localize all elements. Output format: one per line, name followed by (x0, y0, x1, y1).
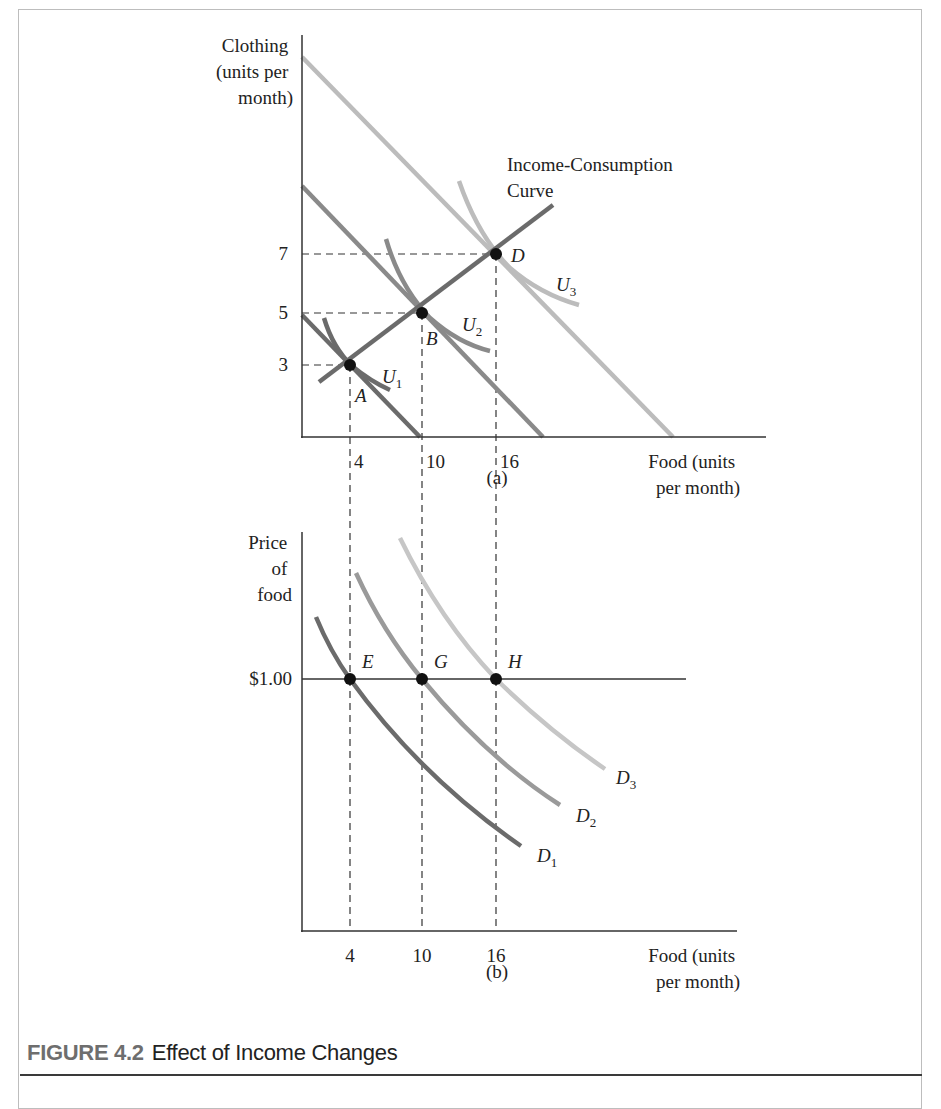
x-axis-label-b: Food (units per month) (648, 945, 740, 993)
point-label-g: G (434, 651, 448, 672)
point-label-e: E (361, 651, 374, 672)
y-axis-label-b: Price of food (248, 532, 292, 605)
demand-curve-d3 (400, 538, 605, 769)
caption-rule (20, 1074, 922, 1076)
figure-number: FIGURE 4.2 (27, 1040, 144, 1065)
y-tick-5: 5 (279, 302, 289, 323)
point-label-b: B (426, 328, 438, 349)
point-g (416, 673, 428, 685)
guide-lines-b (350, 679, 496, 931)
label-d1: D1 (536, 845, 557, 870)
budget-line-1 (302, 315, 420, 437)
y-tick-3: 3 (279, 354, 289, 375)
panel-b: E G H Price of food $1.00 4 10 16 Food (… (248, 532, 740, 993)
figure-caption: FIGURE 4.2Effect of Income Changes (20, 1040, 920, 1080)
icc-annotation: Income-Consumption Curve (507, 154, 677, 201)
point-h (490, 673, 502, 685)
income-consumption-curve (319, 205, 553, 382)
x-axis-label-a: Food (units per month) (648, 451, 740, 499)
y-axis-label-a: Clothing (units per month) (216, 35, 293, 109)
caption-text: FIGURE 4.2Effect of Income Changes (27, 1040, 397, 1066)
demand-curve-d2 (356, 573, 560, 805)
figure-canvas: Clothing (units per month) 7 5 3 4 10 16… (0, 0, 941, 1040)
demand-curve-d1 (316, 617, 521, 846)
label-u2: U2 (462, 314, 482, 339)
label-u3: U3 (556, 274, 576, 299)
x-tick-10-a: 10 (426, 451, 445, 472)
point-e (344, 673, 356, 685)
point-label-a: A (353, 385, 367, 406)
point-a (344, 359, 356, 371)
x-tick-10-b: 10 (413, 945, 432, 966)
panel-label-a: (a) (486, 467, 507, 489)
panel-label-b: (b) (486, 961, 508, 983)
y-tick-price: $1.00 (249, 668, 292, 689)
point-b (416, 307, 428, 319)
x-tick-4-b: 4 (345, 945, 355, 966)
point-d (490, 248, 502, 260)
label-d3: D3 (615, 767, 636, 792)
point-label-d: D (510, 245, 525, 266)
point-label-h: H (507, 651, 523, 672)
figure-title: Effect of Income Changes (152, 1040, 398, 1065)
label-d2: D2 (575, 805, 596, 830)
panel-a: Clothing (units per month) 7 5 3 4 10 16… (216, 35, 766, 931)
x-tick-4-a: 4 (354, 451, 364, 472)
y-tick-7: 7 (279, 243, 289, 264)
